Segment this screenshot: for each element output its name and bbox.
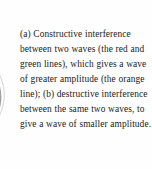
- figure-caption-text: (a) Constructive interference between tw…: [20, 27, 152, 132]
- figure-caption: (a) Constructive interference between tw…: [20, 27, 152, 132]
- figure-caption-panel: (a) Constructive interference between tw…: [0, 0, 152, 169]
- wave-curve-fragment-icon: [0, 50, 20, 140]
